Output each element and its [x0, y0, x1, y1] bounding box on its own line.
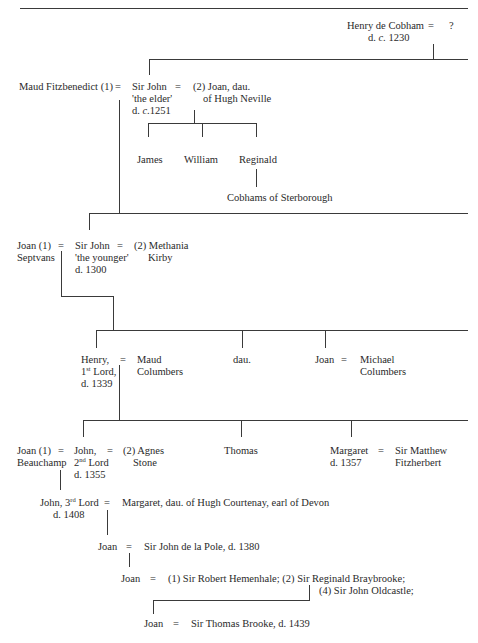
- marriage-sign: =: [126, 541, 132, 553]
- spouse-margaret-courtenay: Margaret, dau. of Hugh Courtenay, earl o…: [122, 497, 329, 509]
- descent-line: [242, 330, 243, 348]
- person-joan-cobham: Joan: [121, 573, 140, 585]
- descent-line: [194, 110, 195, 123]
- spouse-michael-columbers-surname: Columbers: [360, 366, 406, 378]
- descent-line: [107, 510, 108, 535]
- sibling-bar: [149, 59, 468, 60]
- person-joan-de-la-pole: Joan: [98, 541, 117, 553]
- marriage-sign: =: [378, 445, 384, 457]
- descent-line: [83, 420, 84, 437]
- marriage-sign: =: [104, 497, 110, 509]
- descent-line: [96, 330, 97, 348]
- person-joan-brooke: Joan: [144, 618, 163, 630]
- branch-cobhams-of-sterborough: Cobhams of Sterborough: [227, 192, 333, 204]
- descent-line: [153, 600, 154, 614]
- descent-line: [202, 123, 203, 137]
- descent-line: [256, 169, 257, 187]
- descent-line: [149, 59, 150, 75]
- death-john-3rd-lord: d. 1408: [53, 509, 85, 521]
- spouses-joan-cobham: (1) Sir Robert Hemenhale; (2) Sir Regina…: [168, 573, 405, 585]
- sibling-bar: [96, 330, 468, 331]
- marriage-sign: =: [107, 445, 113, 457]
- connector: [61, 296, 113, 297]
- spouse-maud-columbers: Maud: [137, 354, 162, 366]
- spouse-sir-matthew-fitzherbert-surname: Fitzherbert: [395, 457, 441, 469]
- death-sir-john-elder: d. c.1251: [132, 105, 171, 117]
- header-rule: [20, 8, 468, 9]
- spouse-unknown: ?: [449, 20, 454, 32]
- marriage-sign: =: [175, 81, 181, 93]
- wife-maud-fitzbenedict: Maud Fitzbenedict (1): [19, 81, 113, 93]
- person-sir-john-younger: Sir John: [75, 240, 110, 252]
- person-margaret: Margaret: [330, 445, 368, 457]
- child-james: James: [137, 154, 163, 166]
- descent-line: [60, 470, 61, 490]
- wife-joan-beauchamp-surname: Beauchamp: [17, 457, 67, 469]
- wife-joan-neville: (2) Joan, dau.: [193, 81, 250, 93]
- spouse-michael-columbers: Michael: [360, 354, 394, 366]
- descent-line: [148, 123, 149, 137]
- wife-agnes-stone-surname: Stone: [133, 457, 157, 469]
- wife-methania-kirby: (2) Methania: [134, 240, 189, 252]
- wife-agnes-stone: (2) Agnes: [123, 445, 164, 457]
- marriage-sign: =: [120, 354, 126, 366]
- marriage-sign: =: [341, 354, 347, 366]
- death-sir-john-younger: d. 1300: [75, 264, 107, 276]
- wife-methania-kirby-surname: Kirby: [148, 252, 173, 264]
- wife-joan-septvans: Joan (1): [17, 240, 51, 252]
- child-reginald: Reginald: [239, 154, 277, 166]
- sibling-bar: [83, 420, 468, 421]
- spouse-sir-matthew-fitzherbert: Sir Matthew: [395, 445, 447, 457]
- person-daughter: dau.: [233, 354, 251, 366]
- descent-line: [325, 330, 326, 348]
- person-thomas: Thomas: [224, 445, 258, 457]
- descent-line: [61, 251, 62, 296]
- descent-line: [433, 44, 434, 59]
- epithet-the-elder: 'the elder': [132, 93, 172, 105]
- wife-joan-beauchamp: Joan (1): [17, 445, 51, 457]
- marriage-sign: =: [173, 618, 179, 630]
- death-henry-de-cobham: d. c. 1230: [368, 32, 409, 44]
- death-john-2nd-lord: d. 1355: [74, 469, 106, 481]
- descent-line: [241, 420, 242, 437]
- spouse-sir-thomas-brooke: Sir Thomas Brooke, d. 1439: [191, 618, 310, 630]
- spouse-sir-john-de-la-pole: Sir John de la Pole, d. 1380: [144, 541, 260, 553]
- spouse-maud-columbers-surname: Columbers: [137, 366, 183, 378]
- marriage-sign: =: [150, 573, 156, 585]
- descent-line: [309, 585, 310, 600]
- marriage-sign: =: [115, 81, 121, 93]
- death-henry-1st-lord: d. 1339: [81, 378, 113, 390]
- descent-line: [119, 100, 120, 213]
- child-william: William: [184, 154, 218, 166]
- epithet-the-younger: 'the younger': [75, 252, 129, 264]
- person-sir-john-elder: Sir John: [132, 81, 167, 93]
- title-henry-1st-lord: 1st Lord,: [81, 366, 116, 378]
- descent-line: [351, 420, 352, 437]
- death-margaret: d. 1357: [330, 457, 362, 469]
- marriage-sign: =: [58, 445, 64, 457]
- descent-line: [89, 213, 90, 230]
- descent-line: [113, 296, 114, 331]
- marriage-sign: =: [428, 20, 434, 32]
- spouse-sir-john-oldcastle: (4) Sir John Oldcastle;: [319, 585, 414, 597]
- descent-line: [119, 365, 120, 420]
- wife-joan-neville-parent: of Hugh Neville: [203, 93, 271, 105]
- person-john-3rd-lord: John, 3rd Lord: [40, 497, 99, 509]
- connector: [153, 600, 310, 601]
- marriage-sign: =: [117, 240, 123, 252]
- descent-line: [129, 553, 130, 567]
- title-john-2nd-lord: 2nd Lord: [74, 457, 109, 469]
- sibling-bar: [89, 213, 468, 214]
- person-joan: Joan: [315, 354, 334, 366]
- descent-line: [256, 123, 257, 137]
- person-henry-de-cobham: Henry de Cobham: [347, 20, 424, 32]
- wife-joan-septvans-surname: Septvans: [17, 252, 55, 264]
